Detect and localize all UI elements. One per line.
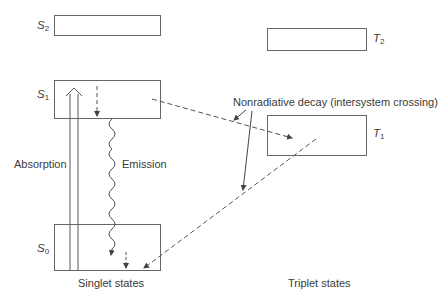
emission-label: Emission <box>122 159 167 170</box>
label-pointer-2 <box>243 111 252 190</box>
isc-arrow-t1-s0 <box>144 139 316 268</box>
state-label-t1: T1 <box>373 128 384 141</box>
absorption-label: Absorption <box>14 159 67 170</box>
absorption-arrow <box>66 88 82 270</box>
state-label-s0: S0 <box>37 243 49 256</box>
state-label-s2: S2 <box>37 20 49 33</box>
triplet-states-label: Triplet states <box>288 278 351 289</box>
level-t2-box <box>268 29 367 51</box>
emission-wavy-arrow <box>109 119 115 255</box>
nonradiative-decay-label: Nonradiative decay (intersystem crossing… <box>233 97 438 108</box>
state-label-s1: S1 <box>37 89 49 102</box>
label-pointer-1 <box>234 110 246 120</box>
level-s2-box <box>55 16 161 36</box>
state-label-t2: T2 <box>373 33 384 46</box>
level-t1-box <box>268 116 367 156</box>
singlet-states-label: Singlet states <box>78 278 144 289</box>
